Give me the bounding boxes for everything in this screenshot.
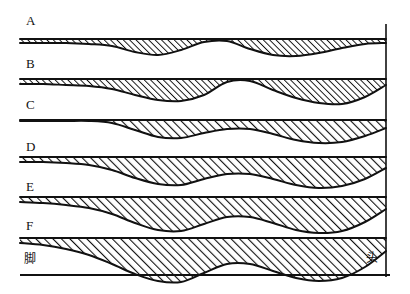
band-label-f: F bbox=[26, 219, 34, 232]
band-label-a: A bbox=[26, 14, 36, 27]
axis-label-head: 头 bbox=[366, 252, 378, 264]
profile-band-b bbox=[20, 79, 386, 104]
figure-container: A B C D E F 脚 头 bbox=[0, 0, 410, 294]
profile-band-a bbox=[20, 39, 386, 56]
band-label-c: C bbox=[26, 98, 35, 111]
profile-band-e bbox=[20, 197, 386, 233]
bands-group bbox=[20, 39, 386, 283]
band-label-d: D bbox=[26, 140, 36, 153]
profile-bands-diagram bbox=[0, 0, 410, 294]
band-hatch-fill-e bbox=[20, 197, 386, 233]
band-hatch-fill-b bbox=[20, 79, 386, 104]
band-hatch-fill-d bbox=[20, 157, 386, 188]
profile-band-c bbox=[20, 120, 386, 143]
profile-band-d bbox=[20, 157, 386, 188]
axis-label-foot: 脚 bbox=[24, 253, 36, 265]
band-label-e: E bbox=[26, 180, 34, 193]
band-hatch-fill-c bbox=[20, 120, 386, 143]
band-label-b: B bbox=[26, 57, 35, 70]
